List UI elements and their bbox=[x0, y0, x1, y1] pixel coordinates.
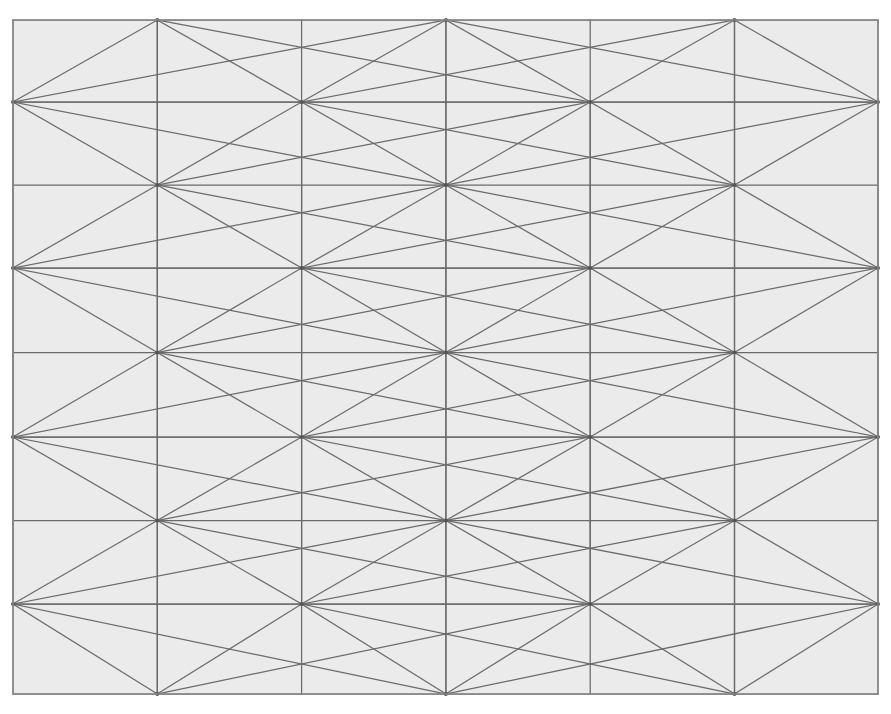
mesh-diagram bbox=[0, 0, 891, 714]
pattern-canvas bbox=[0, 0, 891, 714]
mid-hub-node bbox=[155, 183, 159, 187]
mid-hub-node bbox=[444, 183, 448, 187]
mid-hub-node bbox=[155, 519, 159, 523]
major-hub-node bbox=[300, 602, 304, 606]
major-hub-node bbox=[300, 435, 304, 439]
major-hub-node bbox=[300, 100, 304, 104]
mid-hub-node bbox=[444, 519, 448, 523]
major-hub-node bbox=[588, 602, 592, 606]
major-hub-node bbox=[588, 266, 592, 270]
major-hub-node bbox=[300, 266, 304, 270]
major-hub-node bbox=[588, 435, 592, 439]
mid-hub-node bbox=[444, 351, 448, 355]
mid-hub-node bbox=[733, 519, 737, 523]
major-hub-node bbox=[588, 100, 592, 104]
mid-hub-node bbox=[155, 351, 159, 355]
mid-hub-node bbox=[733, 351, 737, 355]
mid-hub-node bbox=[733, 183, 737, 187]
